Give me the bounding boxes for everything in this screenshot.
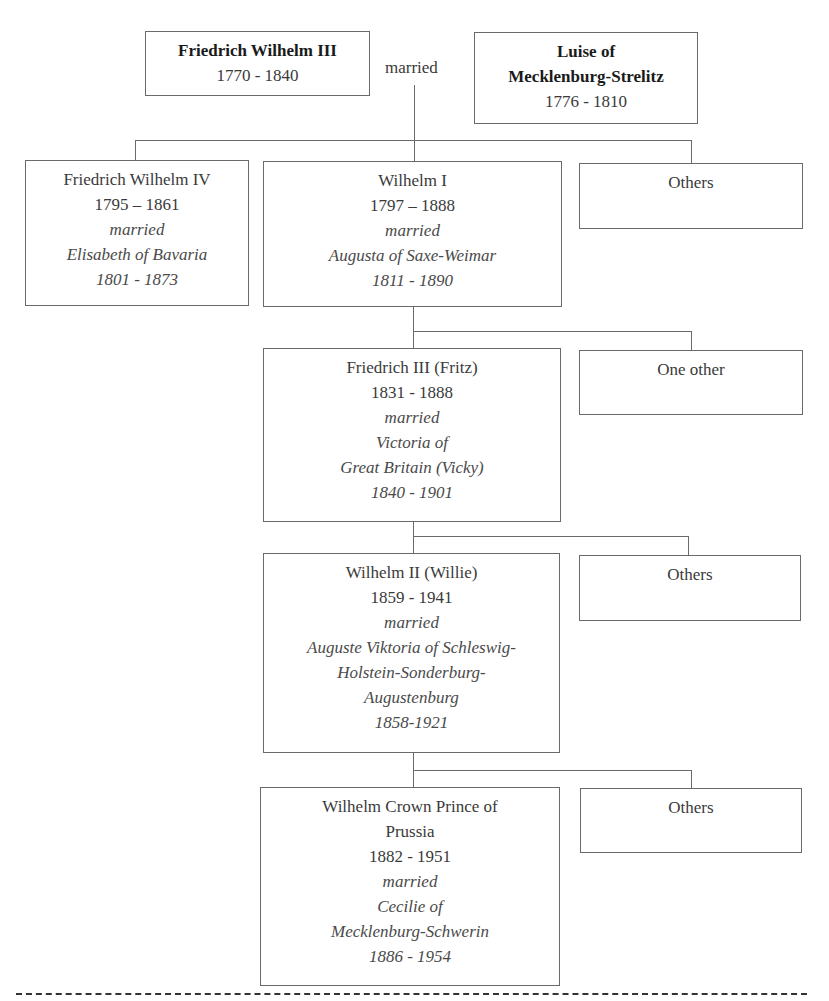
married-label: married: [385, 58, 438, 78]
married-text: married: [261, 869, 559, 894]
others-box-gen3: Others: [579, 555, 801, 621]
spouse-name: Elisabeth of Bavaria: [26, 242, 248, 267]
person-name: Friedrich Wilhelm III: [146, 38, 369, 63]
others-label: One other: [580, 357, 802, 382]
spouse-name-line2: Holstein-Sonderburg-: [264, 660, 559, 685]
person-dates: 1797 – 1888: [264, 193, 561, 218]
connector-line: [135, 140, 692, 141]
spouse-name-line1: Victoria of: [264, 430, 560, 455]
person-dates: 1795 – 1861: [26, 192, 248, 217]
person-name: Friedrich Wilhelm IV: [26, 167, 248, 192]
spouse-dates: 1801 - 1873: [26, 267, 248, 292]
person-name-line1: Wilhelm Crown Prince of: [261, 794, 559, 819]
connector-line: [413, 307, 414, 348]
person-box-friedrich-iii: Friedrich III (Fritz) 1831 - 1888 marrie…: [263, 348, 561, 522]
person-name-line2: Prussia: [261, 819, 559, 844]
connector-line: [691, 770, 692, 789]
person-dates: 1831 - 1888: [264, 380, 560, 405]
spouse-dates: 1886 - 1954: [261, 944, 559, 969]
spouse-name-line1: Cecilie of: [261, 894, 559, 919]
connector-line: [135, 140, 136, 160]
married-text: married: [264, 405, 560, 430]
person-name-line1: Luise of: [475, 39, 697, 64]
person-box-crown-prince-wilhelm: Wilhelm Crown Prince of Prussia 1882 - 1…: [260, 787, 560, 986]
dashed-separator: [16, 993, 807, 995]
person-name: Friedrich III (Fritz): [264, 355, 560, 380]
connector-line: [691, 331, 692, 350]
married-text: married: [264, 218, 561, 243]
person-name: Wilhelm II (Willie): [264, 560, 559, 585]
connector-line: [413, 522, 414, 554]
spouse-dates: 1840 - 1901: [264, 480, 560, 505]
person-dates: 1882 - 1951: [261, 844, 559, 869]
spouse-name: Augusta of Saxe-Weimar: [264, 243, 561, 268]
connector-line: [414, 85, 415, 162]
spouse-name-line2: Great Britain (Vicky): [264, 455, 560, 480]
person-dates: 1776 - 1810: [475, 89, 697, 114]
person-box-wilhelm-ii: Wilhelm II (Willie) 1859 - 1941 married …: [263, 553, 560, 753]
others-box-gen4: Others: [580, 788, 802, 853]
person-name: Wilhelm I: [264, 168, 561, 193]
person-dates: 1770 - 1840: [146, 63, 369, 88]
connector-line: [688, 536, 689, 555]
others-box-gen1: Others: [579, 163, 803, 229]
married-text: married: [264, 610, 559, 635]
others-label: Others: [581, 795, 801, 820]
others-box-gen2: One other: [579, 350, 803, 415]
spouse-dates: 1811 - 1890: [264, 268, 561, 293]
others-label: Others: [580, 562, 800, 587]
person-box-friedrich-wilhelm-iii: Friedrich Wilhelm III 1770 - 1840: [145, 31, 370, 96]
spouse-dates: 1858-1921: [264, 710, 559, 735]
person-box-friedrich-wilhelm-iv: Friedrich Wilhelm IV 1795 – 1861 married…: [25, 160, 249, 306]
connector-line: [413, 770, 692, 771]
spouse-name-line1: Auguste Viktoria of Schleswig-: [264, 635, 559, 660]
connector-line: [413, 331, 692, 332]
others-label: Others: [580, 170, 802, 195]
spouse-name-line3: Augustenburg: [264, 685, 559, 710]
person-box-luise: Luise of Mecklenburg-Strelitz 1776 - 181…: [474, 32, 698, 124]
married-text: married: [26, 217, 248, 242]
person-dates: 1859 - 1941: [264, 585, 559, 610]
connector-line: [413, 536, 689, 537]
connector-line: [691, 140, 692, 163]
person-name-line2: Mecklenburg-Strelitz: [475, 64, 697, 89]
person-box-wilhelm-i: Wilhelm I 1797 – 1888 married Augusta of…: [263, 161, 562, 307]
spouse-name-line2: Mecklenburg-Schwerin: [261, 919, 559, 944]
